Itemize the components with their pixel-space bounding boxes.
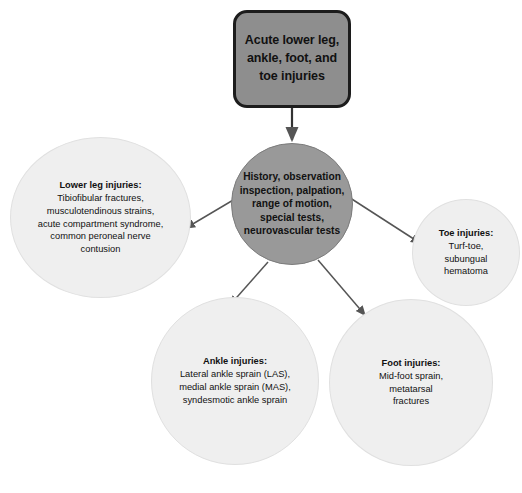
edge-hub-to-toe (344, 194, 420, 243)
node-ankle-injuries: Ankle injuries: Lateral ankle sprain (LA… (151, 297, 319, 465)
node-root-label: Acute lower leg, ankle, foot, and toe in… (239, 32, 345, 85)
node-toe-title: Toe injuries: (439, 227, 494, 240)
node-toe-text: Toe injuries: Turf-toe, subungual hemato… (431, 227, 502, 278)
node-root: Acute lower leg, ankle, foot, and toe in… (233, 10, 351, 108)
injury-assessment-diagram: Acute lower leg, ankle, foot, and toe in… (0, 0, 522, 493)
node-toe-body: Turf-toe, subungual hematoma (439, 240, 494, 278)
node-assessment-hub: History, observation inspection, palpati… (231, 143, 353, 265)
node-lower-leg-injuries: Lower leg injuries: Tibiofibular fractur… (10, 137, 191, 298)
node-lower-leg-text: Lower leg injuries: Tibiofibular fractur… (30, 179, 172, 256)
node-assessment-hub-label: History, observation inspection, palpati… (232, 170, 352, 238)
node-foot-title: Foot injuries: (379, 357, 443, 370)
node-foot-text: Foot injuries: Mid-foot sprain, metatars… (371, 357, 451, 408)
node-foot-injuries: Foot injuries: Mid-foot sprain, metatars… (329, 299, 493, 466)
edge-hub-to-foot (318, 260, 365, 315)
node-toe-injuries: Toe injuries: Turf-toe, subungual hemato… (412, 199, 520, 306)
node-lower-leg-body: Tibiofibular fractures, musculotendinous… (38, 192, 164, 256)
node-ankle-title: Ankle injuries: (179, 355, 291, 368)
node-foot-body: Mid-foot sprain, metatarsal fractures (379, 370, 443, 408)
node-lower-leg-title: Lower leg injuries: (38, 179, 164, 192)
node-ankle-text: Ankle injuries: Lateral ankle sprain (LA… (171, 355, 299, 406)
node-ankle-body: Lateral ankle sprain (LAS), medial ankle… (179, 368, 291, 406)
